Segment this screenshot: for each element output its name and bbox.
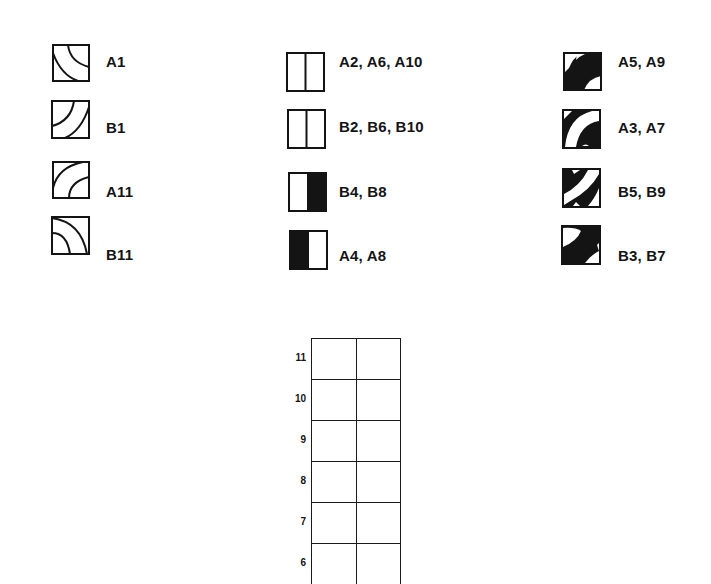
legend-label-a2-a6-a10: A2, A6, A10 — [339, 53, 423, 70]
grid-row-label: 8 — [288, 475, 306, 486]
legend-label-b3-b7: B3, B7 — [618, 247, 666, 264]
legend-label-a3-a7: A3, A7 — [618, 119, 665, 136]
quarter-arcs-bottom-left-corner-icon — [51, 216, 90, 255]
legend-label-a1: A1 — [106, 53, 126, 70]
grid-cell-b8 — [357, 462, 401, 502]
filled-arc-band-icon — [563, 52, 602, 91]
grid-row-6: 6 — [311, 543, 401, 584]
quarter-arcs-bottom-left-diagonal-icon — [51, 100, 90, 139]
grid-row-8: 8 — [311, 461, 401, 502]
split-square-outline-icon — [286, 52, 325, 92]
legend-label-a5-a9: A5, A9 — [618, 53, 665, 70]
grid-cell-b10 — [357, 380, 401, 420]
split-square-right-filled-icon — [288, 172, 327, 212]
legend-label-b11: B11 — [106, 246, 133, 263]
split-square-outline-icon — [287, 109, 326, 149]
grid-row-label: 10 — [288, 393, 306, 404]
grid-cell-b6 — [357, 544, 401, 584]
grid-cell-a6 — [312, 544, 357, 584]
grid-cell-a9 — [312, 421, 357, 461]
quarter-arcs-bottom-right-icon — [52, 161, 90, 199]
quarter-arcs-top-right-and-bottom-left-icon — [52, 44, 90, 82]
grid-cell-b9 — [357, 421, 401, 461]
layout-grid: 11 10 9 8 7 6 — [311, 338, 401, 584]
legend-label-b5-b9: B5, B9 — [618, 183, 666, 200]
grid-row-7: 7 — [311, 502, 401, 543]
grid-cell-a7 — [312, 503, 357, 543]
legend-label-b2-b6-b10: B2, B6, B10 — [339, 118, 424, 135]
grid-row-11: 11 — [311, 338, 401, 379]
grid-cell-a8 — [312, 462, 357, 502]
legend-label-a11: A11 — [106, 183, 133, 200]
grid-row-label: 6 — [288, 557, 306, 568]
legend-label-b4-b8: B4, B8 — [339, 183, 387, 200]
split-square-left-filled-icon — [289, 230, 328, 270]
grid-row-10: 10 — [311, 379, 401, 420]
grid-cell-b7 — [357, 503, 401, 543]
grid-row-9: 9 — [311, 420, 401, 461]
black-arc-band-white-corners-icon — [561, 225, 601, 265]
grid-cell-a11 — [312, 339, 357, 379]
grid-row-label: 9 — [288, 434, 306, 445]
legend-label-b1: B1 — [106, 119, 126, 136]
grid-row-label: 7 — [288, 516, 306, 527]
grid-row-label: 11 — [288, 352, 306, 363]
grid-cell-a10 — [312, 380, 357, 420]
white-diagonal-band-on-black-icon — [562, 168, 601, 208]
white-arc-band-on-black-icon — [562, 109, 601, 149]
legend-label-a4-a8: A4, A8 — [339, 247, 386, 264]
grid-cell-b11 — [357, 339, 401, 379]
